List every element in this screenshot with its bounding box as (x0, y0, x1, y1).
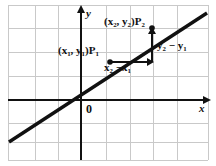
point-p1-label: (x1, y1)P1 (58, 45, 99, 57)
point-p2-marker (149, 25, 155, 31)
point-p2-label: (x2, y2)P2 (104, 16, 145, 28)
origin-label: 0 (86, 103, 92, 115)
x-axis-label: x (199, 103, 205, 114)
run-label: x2 −x1 (104, 62, 131, 74)
rise-label: y2 − y1 (157, 40, 187, 52)
y-axis-label: y (86, 8, 91, 19)
slope-diagram-figure: (x2, y2)P2 (x1, y1)P1 y2 − y1 x2 −x1 0 x… (0, 0, 216, 166)
